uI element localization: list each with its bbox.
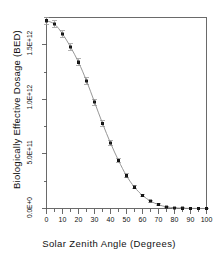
chart-figure: Biologically Effective Dosage (BED) Sola…: [0, 0, 218, 261]
y-tick-label: 0.0E+0: [25, 195, 32, 219]
y-tick-label: 1.5E+12: [25, 31, 32, 55]
data-markers: [45, 19, 208, 209]
y-tick-label: 1.0E+12: [25, 86, 32, 110]
y-tick-label: 5.0E+11: [25, 140, 32, 164]
x-tick-label: 100: [198, 216, 216, 223]
error-bars: [44, 18, 208, 209]
y-axis-ticks: [42, 18, 47, 209]
